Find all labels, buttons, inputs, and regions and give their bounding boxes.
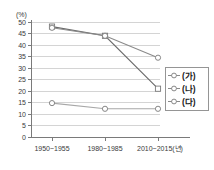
y-axis-tick-labels: 50 45 40 35 30 25 20 15 10 5 0 bbox=[18, 19, 26, 141]
x-tick-label: 1950~1955 bbox=[34, 145, 69, 152]
legend-label: (나) bbox=[182, 84, 196, 94]
x-tick-label: 2010~2015(년) bbox=[137, 144, 183, 153]
y-axis-unit-label: (%) bbox=[16, 11, 27, 19]
y-tick-label: 45 bbox=[18, 30, 26, 37]
legend-label: (다) bbox=[182, 97, 196, 107]
y-axis bbox=[28, 20, 31, 137]
y-tick-label: 10 bbox=[18, 111, 26, 118]
y-tick-label: 20 bbox=[18, 88, 26, 95]
legend: (가) (나) (다) bbox=[165, 67, 208, 110]
y-tick-label: 0 bbox=[22, 134, 26, 141]
y-tick-label: 25 bbox=[18, 76, 26, 83]
x-axis-tick-labels: 1950~1955 1980~1985 2010~2015(년) bbox=[34, 144, 183, 153]
line-chart: 50 45 40 35 30 25 20 15 10 5 0 (%) 1950~… bbox=[0, 0, 214, 170]
series-ga-line bbox=[52, 28, 158, 58]
legend-label: (가) bbox=[182, 71, 196, 81]
y-tick-label: 35 bbox=[18, 53, 26, 60]
y-tick-label: 5 bbox=[22, 122, 26, 129]
y-tick-label: 15 bbox=[18, 99, 26, 106]
plot-gridlines bbox=[31, 22, 160, 126]
y-tick-label: 30 bbox=[18, 65, 26, 72]
y-tick-label: 50 bbox=[18, 19, 26, 26]
y-tick-label: 40 bbox=[18, 42, 26, 49]
x-tick-label: 1980~1985 bbox=[87, 145, 122, 152]
x-axis bbox=[31, 137, 190, 141]
